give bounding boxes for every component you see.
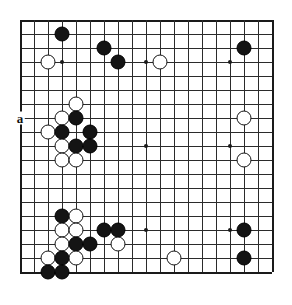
white-stone[interactable] [41,251,56,266]
white-stone[interactable] [69,153,84,168]
white-stone[interactable] [41,125,56,140]
white-stone[interactable] [167,251,182,266]
star-point-16-10 [228,144,232,148]
black-stone[interactable] [111,55,126,70]
black-stone[interactable] [55,251,70,266]
point-label-a: a [16,112,25,125]
black-stone[interactable] [55,125,70,140]
black-stone[interactable] [83,125,98,140]
white-stone[interactable] [55,111,70,126]
grid-line-vertical-9 [132,20,133,272]
black-stone[interactable] [237,251,252,266]
grid-line-vertical-14 [202,20,203,272]
white-stone[interactable] [237,153,252,168]
star-point-16-16 [228,228,232,232]
white-stone[interactable] [41,55,56,70]
black-stone[interactable] [97,41,112,56]
black-stone[interactable] [97,223,112,238]
star-point-16-4 [228,60,232,64]
star-point-10-4 [144,60,148,64]
black-stone[interactable] [55,27,70,42]
black-stone[interactable] [111,223,126,238]
white-stone[interactable] [153,55,168,70]
grid-line-vertical-12 [174,20,175,272]
white-stone[interactable] [69,97,84,112]
grid-line-vertical-13 [188,20,189,272]
grid-line-vertical-2 [34,20,35,272]
grid-line-vertical-15 [216,20,217,272]
grid-line-vertical-1 [20,20,22,272]
star-point-10-10 [144,144,148,148]
black-stone[interactable] [55,265,70,280]
go-board[interactable]: a [20,20,272,282]
black-stone[interactable] [69,237,84,252]
black-stone[interactable] [41,265,56,280]
black-stone[interactable] [237,223,252,238]
white-stone[interactable] [55,237,70,252]
black-stone[interactable] [55,209,70,224]
black-stone[interactable] [83,237,98,252]
go-diagram-figure: a [0,0,292,305]
white-stone[interactable] [55,223,70,238]
white-stone[interactable] [69,251,84,266]
star-point-4-4 [60,60,64,64]
white-stone[interactable] [55,139,70,154]
star-point-10-16 [144,228,148,232]
black-stone[interactable] [237,41,252,56]
black-stone[interactable] [83,139,98,154]
white-stone[interactable] [111,237,126,252]
white-stone[interactable] [69,209,84,224]
white-stone[interactable] [69,223,84,238]
grid-line-vertical-19 [272,20,274,272]
white-stone[interactable] [55,153,70,168]
white-stone[interactable] [237,111,252,126]
black-stone[interactable] [69,111,84,126]
grid-line-vertical-18 [258,20,259,272]
black-stone[interactable] [69,139,84,154]
